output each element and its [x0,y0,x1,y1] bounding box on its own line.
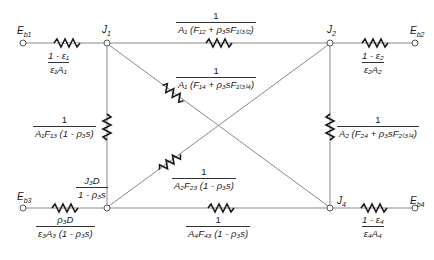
label-eb2: Eb2 [410,25,424,40]
frac-space-12-num: 1 [211,10,220,22]
node-j1 [104,40,110,46]
frac-surface-2-num: 1 - ε₂ [360,50,386,62]
label-eb3-main: E [17,191,24,202]
label-eb2-main: E [410,25,417,36]
frac-surface-1-den: ε₁A₁ [48,62,69,75]
label-eb4-sub: b4 [417,201,425,208]
frac-surface-2: 1 - ε₂ ε₂A₂ [360,50,386,75]
label-j4: J4 [337,195,346,210]
frac-space-12: 1 A₁ (F₁₂ + ρ₃sF₁₍₃₎₂) [176,10,256,35]
frac-space-14-num: 1 [211,65,220,77]
frac-surface-3-den: ε₃A₃ (1 - ρ₃s) [36,226,95,239]
frac-surface-4: 1 - ε₄ ε₄A₄ [360,214,386,239]
label-j1: J1 [102,24,111,39]
frac-space-24: 1 A₂ (F₂₄ + ρ₃sF₂₍₃₎₄) [337,114,419,139]
frac-space-12-den: A₁ (F₁₂ + ρ₃sF₁₍₃₎₂) [176,22,256,35]
frac-node-3-num: J₃D [82,175,101,187]
label-eb3-sub: b3 [24,197,32,204]
node-j2 [327,40,333,46]
frac-surface-1: 1 - ε₁ ε₁A₁ [46,50,71,75]
frac-surface-1-num: 1 - ε₁ [46,50,71,62]
label-j4-sub: 4 [342,201,346,208]
frac-space-23: 1 A₂F₂₃ (1 - ρ₃s) [172,166,236,191]
label-eb1-main: E [17,25,24,36]
resistor-surface-1 [54,39,80,47]
label-eb1: Eb1 [17,25,31,40]
frac-surface-2-den: ε₂A₂ [362,62,384,75]
frac-space-13: 1 A₁F₁₃ (1 - ρ₃s) [33,114,96,139]
node-j3 [104,205,110,211]
label-eb1-sub: b1 [24,31,32,38]
frac-space-14: 1 A₁ (F₁₄ + ρ₃sF₁₍₃₎₄) [176,65,256,90]
label-eb3: Eb3 [17,191,31,206]
node-j4 [327,205,333,211]
label-j1-sub: 1 [107,30,111,37]
label-eb4: Eb4 [410,195,424,210]
frac-surface-4-num: 1 - ε₄ [360,214,386,226]
frac-space-14-den: A₁ (F₁₄ + ρ₃sF₁₍₃₎₄) [176,77,256,90]
frac-space-23-den: A₂F₂₃ (1 - ρ₃s) [172,178,236,191]
node-eb2 [412,40,418,46]
label-j2: J2 [327,24,336,39]
label-j2-sub: 2 [332,30,336,37]
frac-surface-3-num: ρ₃D [55,214,75,226]
frac-space-43: 1 A₄F₄₃ (1 - ρ₃s) [186,214,250,239]
frac-space-43-num: 1 [213,214,222,226]
frac-space-24-num: 1 [373,114,382,126]
frac-surface-4-den: ε₄A₄ [362,226,384,239]
frac-surface-3: ρ₃D ε₃A₃ (1 - ρ₃s) [36,214,95,239]
label-eb2-sub: b2 [417,31,425,38]
frac-space-13-num: 1 [60,114,69,126]
frac-node-3-radiosity: J₃D 1 - ρ₃s [76,175,108,200]
frac-node-3-den: 1 - ρ₃s [76,187,108,200]
frac-space-23-num: 1 [199,166,208,178]
label-eb4-main: E [410,195,417,206]
node-eb1 [20,40,26,46]
frac-space-43-den: A₄F₄₃ (1 - ρ₃s) [186,226,250,239]
frac-space-24-den: A₂ (F₂₄ + ρ₃sF₂₍₃₎₄) [337,126,419,139]
frac-space-13-den: A₁F₁₃ (1 - ρ₃s) [33,126,96,139]
